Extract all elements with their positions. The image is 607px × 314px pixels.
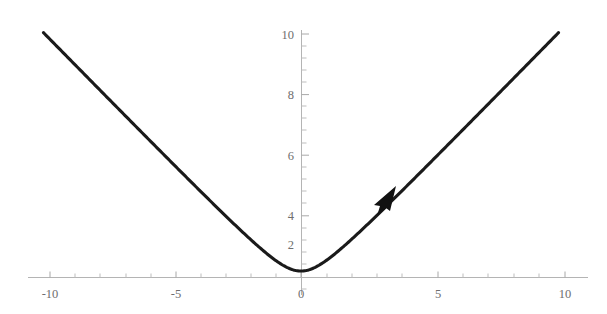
x-tick-label-zero: 0 [298, 287, 304, 301]
y-axis-ticks [302, 34, 310, 289]
y-tick-label-eight: 8 [288, 88, 294, 102]
x-tick-label-ten: 10 [559, 287, 572, 301]
y-tick-label-two: 2 [288, 238, 294, 252]
x-tick-label-neg-ten: -10 [42, 287, 59, 301]
y-tick-label-ten: 10 [282, 28, 295, 42]
plot-container: -10 -5 0 5 10 10 8 6 4 2 [0, 0, 607, 314]
x-tick-label-five: 5 [435, 287, 441, 301]
y-tick-label-six: 6 [288, 149, 294, 163]
x-axis-ticks [50, 272, 565, 278]
x-tick-label-neg-five: -5 [171, 287, 181, 301]
y-tick-label-four: 4 [288, 209, 295, 223]
chart-canvas: -10 -5 0 5 10 10 8 6 4 2 [0, 0, 607, 314]
